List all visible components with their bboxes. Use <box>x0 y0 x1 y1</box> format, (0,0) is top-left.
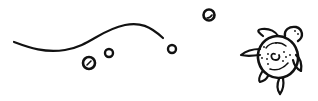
illustration-svg <box>0 0 318 101</box>
turtle-icon <box>241 27 303 94</box>
bubble-top-icon <box>204 10 215 21</box>
bubble-large-icon <box>83 57 95 69</box>
bubble-small-icon <box>105 49 113 57</box>
wave-line <box>14 24 163 51</box>
turtle-illustration: sea turtle swimming with bubbles and wav… <box>0 0 318 101</box>
bubble-right-icon <box>168 45 176 53</box>
